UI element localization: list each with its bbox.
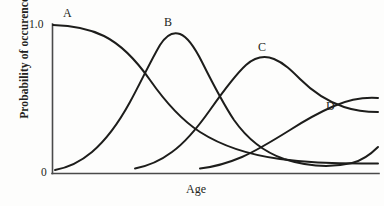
curve-label-c: C [258, 41, 266, 53]
y-tick-label-bottom: 0 [41, 167, 47, 179]
y-tick-label-top: 1.0 [29, 19, 43, 31]
probability-vs-age-figure: Probability of occurence Age 1.0 0 A B C… [0, 0, 384, 206]
curve-label-d: D [326, 100, 335, 112]
curve-c [135, 57, 378, 168]
x-axis-label: Age [186, 183, 206, 195]
curve-label-b: B [164, 16, 172, 28]
curve-label-a: A [63, 7, 72, 19]
